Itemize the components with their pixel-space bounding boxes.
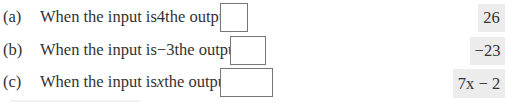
- question-input-value: x: [157, 72, 164, 92]
- question-text-before: When the input is: [40, 7, 157, 27]
- divider: [10, 100, 140, 102]
- question-label: (a): [0, 7, 40, 27]
- answer-c: 7x − 2: [453, 69, 505, 98]
- answer-box-a[interactable]: [220, 3, 248, 32]
- question-c: (c) When the input is x the output is: [0, 68, 246, 96]
- answer-box-b[interactable]: [230, 36, 266, 65]
- question-input-value: −3: [157, 40, 175, 60]
- answer-a: 26: [478, 4, 505, 32]
- question-text-before: When the input is: [40, 40, 157, 60]
- question-label: (c): [0, 72, 40, 92]
- question-a: (a) When the input is 4 the output is: [0, 3, 247, 31]
- question-input-value: 4: [157, 7, 165, 27]
- question-text-before: When the input is: [40, 72, 157, 92]
- question-label: (b): [0, 40, 40, 60]
- question-b: (b) When the input is −3 the output is: [0, 36, 256, 64]
- answer-box-c[interactable]: [220, 68, 273, 97]
- answer-b: −23: [470, 37, 505, 65]
